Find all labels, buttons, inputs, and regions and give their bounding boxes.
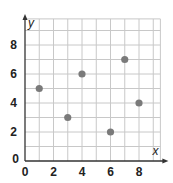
data-point (135, 99, 142, 106)
x-tick-label: 4 (79, 165, 86, 179)
y-axis-arrow-icon (23, 14, 28, 20)
x-axis-label: x (151, 144, 159, 158)
x-axis-arrow-icon (162, 159, 168, 164)
y-tick-label: 0 (12, 152, 19, 166)
data-point (107, 128, 114, 135)
x-tick-label: 6 (107, 165, 114, 179)
x-tick-label: 8 (136, 165, 143, 179)
data-point (64, 114, 71, 121)
data-point (78, 70, 85, 77)
y-tick-label: 8 (10, 38, 17, 52)
grid-lines (25, 19, 160, 161)
x-tick-label: 2 (50, 165, 57, 179)
data-point (36, 85, 43, 92)
y-tick-label: 6 (10, 67, 17, 81)
tick-labels: 0246802468xy (10, 16, 159, 179)
y-axis-label: y (27, 16, 35, 30)
y-tick-label: 2 (10, 125, 17, 139)
data-points (36, 56, 143, 136)
y-tick-label: 4 (10, 96, 17, 110)
x-tick-label: 0 (22, 165, 29, 179)
data-point (121, 56, 128, 63)
scatter-chart: 0246802468xy (0, 0, 173, 183)
